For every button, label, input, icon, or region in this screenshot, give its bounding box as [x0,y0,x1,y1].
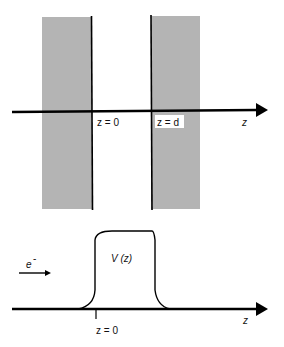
electron-charge-superscript: - [33,253,36,264]
label-z-equals-d: z = d [157,117,179,128]
bottom-axis-arrowhead-icon [256,302,268,316]
bottom-axis-label: z [242,315,248,326]
label-z-equals-0: z = 0 [97,117,119,128]
right-slab [151,16,200,209]
interface-line-z0 [92,16,93,210]
diagram-canvas: z = 0 z = d z z = 0 z V (z) e - [0,0,284,347]
top-axis-label: z [241,117,247,128]
potential-label: V (z) [111,253,132,264]
bottom-label-z-equals-0: z = 0 [96,325,118,336]
electron-arrow-head-icon [45,270,51,276]
top-axis-arrowhead-icon [256,103,268,117]
electron-label: e [26,259,32,270]
top-panel: z = 0 z = d z [12,15,268,210]
left-slab [42,17,92,209]
bottom-panel: z = 0 z V (z) e - [12,231,268,336]
potential-barrier-curve [78,231,170,309]
interface-line-zd [151,15,152,210]
